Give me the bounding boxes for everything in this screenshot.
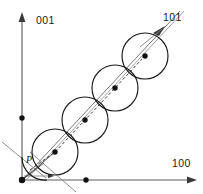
- point-label-p: P: [25, 154, 32, 165]
- atom-center-dot-2: [82, 117, 87, 122]
- origin-dot: [19, 177, 25, 183]
- atom-center-dot-1: [52, 149, 57, 154]
- helper-line-lower-right: [30, 152, 76, 192]
- horizontal-axis-arrowhead: [187, 177, 197, 184]
- atom-center-dot-4: [142, 53, 147, 58]
- direction-label-101: 101: [163, 11, 182, 23]
- figure-canvas: 001 100 101 P: [0, 0, 203, 194]
- row-direction-group: [22, 11, 184, 180]
- trace-line-origin-tangent: [22, 163, 44, 180]
- row-direction-line-parallel: [26, 11, 184, 180]
- crystal-direction-figure: 001 100 101 P: [0, 0, 203, 194]
- axis-label-001: 001: [36, 14, 55, 26]
- origin-helper-lines: [2, 142, 76, 192]
- axis-group-vertical: [19, 12, 26, 180]
- atom-center-dot-3: [112, 85, 117, 90]
- vertical-axis-arrowhead: [19, 12, 26, 22]
- vertical-axis-node-dot: [19, 115, 24, 120]
- axis-label-100: 100: [172, 157, 191, 169]
- horizontal-axis-node-dot: [83, 177, 88, 182]
